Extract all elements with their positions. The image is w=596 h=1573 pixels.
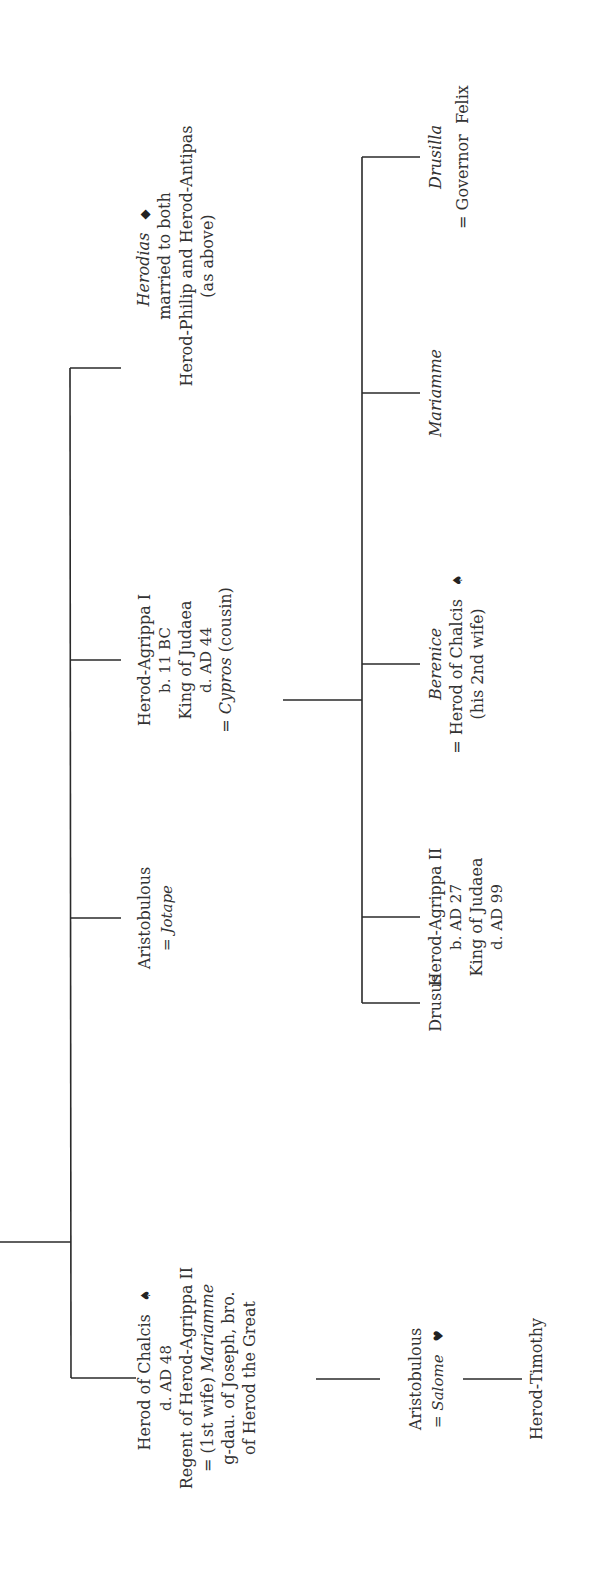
person-name: Herod-Timothy [527,1318,546,1440]
spade-icon: ♠ [450,574,465,586]
person-title: King of Judaea [467,857,486,976]
person-agrippa2: Herod-Agrippa II b. AD 27 King of Judaea… [426,848,506,987]
person-note: (as above) [198,214,217,297]
spouse-name: Salome [429,1354,447,1410]
spouse-note: of Herod the Great [240,1301,259,1455]
diamond-icon: ◆ [137,210,152,220]
svg-text:= Herod of Chalcis ♠: = Herod of Chalcis ♠ [447,574,466,753]
person-agrippa1: Herod-Agrippa I b. 11 BC King of Judaea … [135,587,235,733]
person-spouse-prefix: = [429,1411,447,1428]
person-spouse: = Cypros (cousin) [216,587,235,733]
person-spouse: = Governor Felix [453,85,472,229]
person-herodias: Herodias ◆ married to both Herod-Philip … [134,125,217,386]
person-note: Herod-Philip and Herod-Antipas [177,125,196,386]
person-birth: b. AD 27 [447,884,465,950]
person-spouse: = Herod of Chalcis [447,599,466,754]
person-name: Berenice [426,628,445,701]
person-death: d. AD 48 [157,1345,175,1411]
person-death: d. AD 44 [197,627,215,693]
person-name: Herod of Chalcis [135,1314,154,1450]
spade-icon: ♠ [138,1290,153,1302]
person-spouse: = Jotape [158,885,176,951]
person-aristobulous2: Aristobulous = Salome ♥ [406,1328,447,1431]
person-name: Drusilla [426,125,445,190]
person-name: Herod-Agrippa II [426,848,445,987]
person-note: (his 2nd wife) [468,608,487,719]
person-name: Mariamme [426,349,445,438]
spouse-name: Cypros [216,657,235,714]
person-death: d. AD 99 [488,884,506,950]
person-berenice: Berenice = Herod of Chalcis ♠ (his 2nd w… [426,574,487,753]
person-chalcis: Herod of Chalcis ♠ d. AD 48 Regent of He… [135,1267,259,1489]
spouse-name: Jotape [158,885,176,937]
person-note: married to both [155,192,174,320]
spouse-name: Mariamme [198,1284,217,1373]
person-title: Regent of Herod-Agrippa II [177,1267,196,1489]
person-aristobulous1: Aristobulous = Jotape [135,867,176,970]
svg-text:Herodias ◆: Herodias ◆ [134,210,153,308]
person-name: Herodias [134,233,153,308]
svg-text:Herod of Chalcis ♠: Herod of Chalcis ♠ [135,1290,154,1451]
person-name: Herod-Agrippa I [135,594,154,726]
svg-text:= Salome ♥: = Salome ♥ [429,1330,447,1428]
person-name: Aristobulous [406,1328,425,1431]
person-timothy: Herod-Timothy [527,1318,546,1440]
family-tree-diagram: Herodias ◆ married to both Herod-Philip … [0,0,596,1573]
person-drusilla: Drusilla = Governor Felix [426,85,472,229]
person-title: King of Judaea [176,600,195,719]
person-spouse: = (1st wife) Mariamme [198,1284,217,1472]
sibling-spine-line [70,368,71,1378]
person-name: Aristobulous [135,867,154,970]
spouse-note: g-dau. of Joseph, bro. [219,1291,238,1464]
person-birth: b. 11 BC [156,627,174,693]
connector-lines [0,157,522,1379]
person-mariamme: Mariamme [426,349,445,438]
heart-icon: ♥ [431,1330,446,1342]
